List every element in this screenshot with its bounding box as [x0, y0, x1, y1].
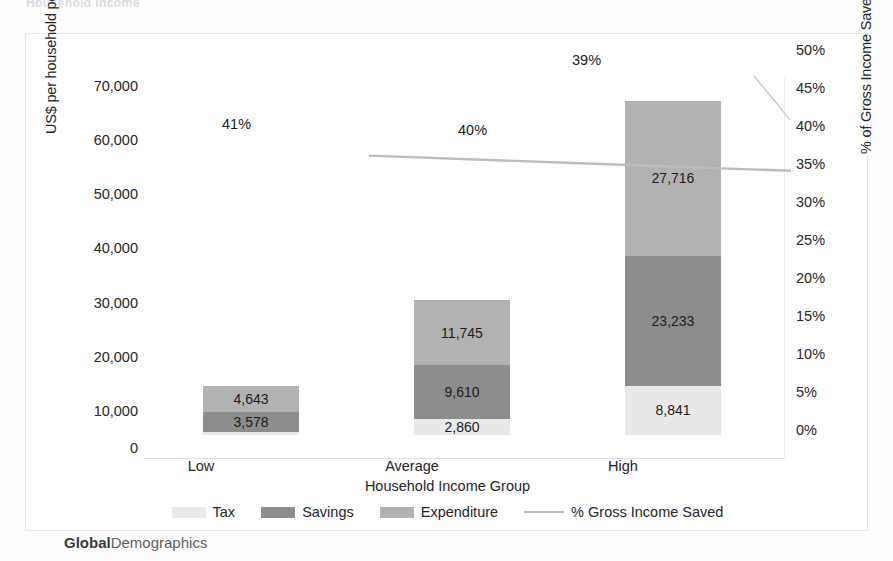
percent-saved-line: [369, 156, 791, 171]
scanned-page: Household Income 70,000 60,000 50,000 40…: [0, 0, 893, 561]
logo-rest-part: Demographics: [111, 534, 208, 551]
legend-item-tax[interactable]: Tax: [172, 504, 236, 520]
left-axis-tick: 20,000: [64, 349, 138, 365]
y-axis-title: US$ per household per annum: [43, 0, 59, 134]
legend-label-expenditure: Expenditure: [421, 504, 498, 520]
line-data-label-low: 41%: [222, 116, 251, 132]
line-data-label-average: 40%: [458, 122, 487, 138]
plot-area: 4,643 3,578 11,745 9,610 2,860 27,716 23…: [144, 44, 784, 435]
legend-swatch-tax-icon: [172, 507, 206, 518]
legend-label-savings: Savings: [302, 504, 354, 520]
legend-item-percent-gross-income-saved[interactable]: % Gross Income Saved: [524, 504, 723, 520]
left-axis-tick: 70,000: [64, 78, 138, 94]
category-label-average: Average: [337, 458, 487, 474]
x-axis-title: Household Income Group: [26, 478, 869, 494]
legend-label-tax: Tax: [213, 504, 236, 520]
chart-legend: Tax Savings Expenditure % Gross Income S…: [26, 504, 869, 520]
left-axis-tick: 0: [64, 440, 138, 456]
line-data-label-high: 39%: [572, 52, 601, 68]
category-label-high: High: [548, 458, 698, 474]
global-demographics-logo: GlobalDemographics: [64, 534, 207, 551]
left-axis-tick: 40,000: [64, 240, 138, 256]
label-leader-line-high: [754, 76, 790, 120]
legend-swatch-expenditure-icon: [380, 507, 414, 518]
legend-item-savings[interactable]: Savings: [261, 504, 354, 520]
legend-item-expenditure[interactable]: Expenditure: [380, 504, 498, 520]
left-axis-tick: 10,000: [64, 403, 138, 419]
left-axis-tick: 50,000: [64, 186, 138, 202]
legend-line-marker-icon: [524, 511, 564, 513]
chart-frame: 70,000 60,000 50,000 40,000 30,000 20,00…: [25, 33, 868, 531]
category-label-low: Low: [126, 458, 276, 474]
logo-bold-part: Global: [64, 534, 111, 551]
page-top-crumb-text: Household Income: [26, 0, 286, 10]
left-axis-tick: 30,000: [64, 295, 138, 311]
legend-swatch-savings-icon: [261, 507, 295, 518]
percent-saved-line-series: [262, 54, 893, 474]
legend-label-percent-gross-income-saved: % Gross Income Saved: [571, 504, 723, 520]
left-axis-tick: 60,000: [64, 132, 138, 148]
